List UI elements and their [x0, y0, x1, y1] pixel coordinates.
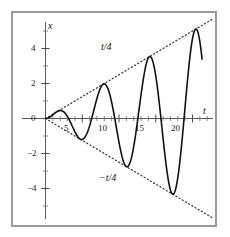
y-tick-label-0: 0	[31, 114, 36, 123]
lower-envelope-line	[46, 119, 212, 218]
y-tick-label-4: 4	[31, 44, 36, 53]
y-tick-label-minus4: −4	[27, 184, 37, 193]
upper-envelope-label: t/4	[101, 42, 112, 52]
y-axis-name: x	[48, 21, 52, 31]
oscillation-curve	[46, 29, 203, 194]
x-tick-label-10: 10	[98, 124, 107, 133]
x-axis-name: t	[203, 106, 206, 116]
y-tick-label-2: 2	[31, 79, 36, 88]
x-tick-label-20: 20	[171, 124, 180, 133]
x-tick-label-5: 5	[64, 124, 69, 133]
lower-envelope-label: −t/4	[99, 173, 116, 183]
plot-figure: x t 4 2 0 −2 −4 5 10 15 20 t/4 −t/4	[0, 0, 230, 237]
upper-envelope-line	[46, 20, 212, 119]
x-tick-label-15: 15	[135, 124, 144, 133]
y-tick-label-minus2: −2	[27, 149, 37, 158]
